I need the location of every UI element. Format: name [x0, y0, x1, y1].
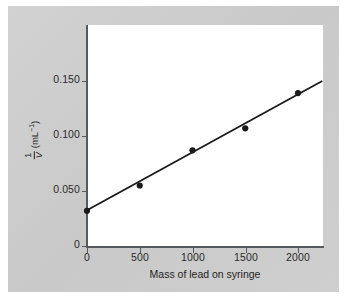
y-axis-title-numerator: 1 [24, 152, 33, 159]
y-axis-title: 1 V (mL−1) [24, 121, 44, 160]
y-axis-units-close: ) [29, 121, 40, 124]
x-tick-label-1000: 1000 [173, 251, 213, 263]
plot-panel [87, 25, 323, 247]
x-axis-title: Mass of lead on syringe [87, 268, 323, 280]
y-tick-mark-150 [82, 81, 87, 82]
y-tick-mark-100 [82, 136, 87, 137]
y-tick-label-150: 0.150 [0, 73, 80, 85]
y-axis-units-open: (mL [29, 132, 40, 148]
y-tick-mark-0 [82, 246, 87, 247]
x-tick-label-500: 500 [120, 251, 160, 263]
y-axis-title-denominator: V [35, 151, 44, 159]
x-axis-line [86, 246, 324, 248]
chart-figure: 0 0.050 0.100 0.150 0 500 1000 1500 2000… [0, 0, 347, 299]
x-tick-label-0: 0 [67, 251, 107, 263]
x-tick-label-1500: 1500 [226, 251, 266, 263]
y-tick-label-050: 0.050 [0, 183, 80, 195]
y-tick-label-0: 0 [0, 238, 80, 250]
y-axis-title-units: (mL−1) [28, 121, 40, 149]
y-tick-mark-050 [82, 191, 87, 192]
y-axis-title-fraction: 1 V [24, 151, 44, 159]
y-axis-title-wrapper: 1 V (mL−1) [24, 100, 44, 180]
x-tick-label-2000: 2000 [278, 251, 318, 263]
y-axis-units-exponent: −1 [28, 124, 35, 132]
